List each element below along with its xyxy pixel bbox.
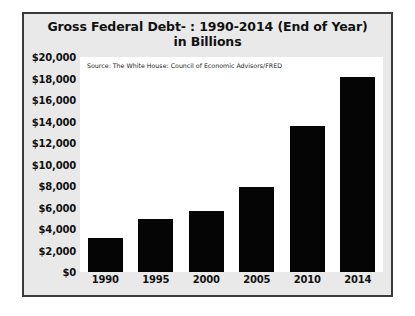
bar-column	[340, 57, 375, 272]
x-axis-tick-label: 2010	[290, 274, 325, 285]
bar-2014	[340, 77, 375, 272]
y-axis-tick-label: $14,000	[32, 116, 76, 127]
y-axis-tick-label: $20,000	[32, 52, 76, 63]
bar-1995	[138, 219, 173, 272]
y-axis-tick-label: $4,000	[39, 224, 76, 235]
bar-2000	[189, 211, 224, 272]
y-axis: $20,000$18,000$16,000$14,000$12,000$10,0…	[24, 57, 78, 272]
bar-column	[189, 57, 224, 272]
chart-title: Gross Federal Debt- : 1990-2014 (End of …	[24, 19, 391, 49]
y-axis-tick-label: $0	[62, 267, 76, 278]
bar-column	[239, 57, 274, 272]
y-axis-tick-label: $6,000	[39, 202, 76, 213]
bar-column	[290, 57, 325, 272]
chart-frame: Gross Federal Debt- : 1990-2014 (End of …	[22, 12, 393, 297]
bar-2005	[239, 187, 274, 272]
x-axis-tick-label: 2014	[340, 274, 375, 285]
x-axis-tick-label: 2005	[239, 274, 274, 285]
y-axis-tick-label: $18,000	[32, 73, 76, 84]
chart-title-line1: Gross Federal Debt- : 1990-2014 (End of …	[47, 19, 367, 34]
bar-column	[138, 57, 173, 272]
bar-2010	[290, 126, 325, 272]
bar-column	[88, 57, 123, 272]
y-axis-tick-label: $8,000	[39, 181, 76, 192]
x-axis: 199019952000200520102014	[80, 273, 383, 293]
x-axis-tick-label: 1990	[88, 274, 123, 285]
chart-title-line2: in Billions	[24, 34, 391, 49]
x-axis-tick-label: 1995	[138, 274, 173, 285]
x-axis-tick-label: 2000	[189, 274, 224, 285]
y-axis-tick-label: $16,000	[32, 95, 76, 106]
y-axis-tick-label: $10,000	[32, 159, 76, 170]
y-axis-tick-label: $2,000	[39, 245, 76, 256]
bar-1990	[88, 238, 123, 272]
y-axis-tick-label: $12,000	[32, 138, 76, 149]
plot-area: Source: The White House: Council of Econ…	[80, 57, 383, 272]
